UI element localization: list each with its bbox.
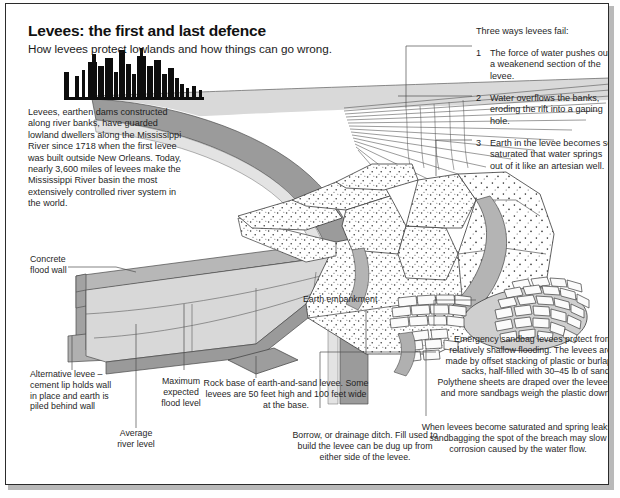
fail-item-3-text: Earth in the levee becomes so saturated …	[490, 138, 609, 172]
page-subtitle: How levees protect lowlands and how thin…	[28, 42, 332, 55]
callout-alternative-levee: Alternative levee – cement lip holds wal…	[30, 369, 120, 412]
callout-rock-base: Rock base of earth-and-sand levee. Some …	[202, 378, 370, 410]
levee-block-c	[336, 164, 418, 190]
callout-saturated-note: When levees become saturated and spring …	[420, 422, 609, 454]
fail-item-2-number: 2	[476, 93, 481, 103]
page-title: Levees: the first and last defence	[28, 22, 266, 40]
callout-average-river-level: Average river level	[100, 428, 172, 450]
callout-borrow-ditch: Borrow, or drainage ditch. Fill used to …	[290, 430, 440, 462]
callout-concrete-flood-wall: Concrete flood wall	[30, 254, 90, 276]
fail-item-2-text: Water overflows the banks, eroding the r…	[490, 93, 609, 127]
fail-item-1-number: 1	[476, 48, 481, 58]
levee-block-e	[398, 226, 458, 280]
city-skyline-silhouette	[64, 48, 204, 100]
fail-item-3-number: 3	[476, 138, 481, 148]
fail-panel-heading: Three ways levees fail:	[476, 26, 569, 36]
callout-emergency-sandbag: Emergency sandbag levees protect from re…	[434, 334, 609, 399]
infographic-page: Levees: the first and last defence How l…	[0, 0, 620, 498]
fail-item-1-text: The force of water pushes out a weakenen…	[490, 48, 609, 82]
intro-paragraph: Levees, earthen dams constructed along r…	[28, 107, 188, 210]
infographic-frame: Levees: the first and last defence How l…	[5, 3, 609, 485]
callout-earth-embankment: Earth embankment	[303, 294, 377, 305]
